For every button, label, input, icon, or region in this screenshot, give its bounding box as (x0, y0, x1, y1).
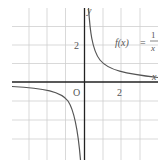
svg-text:x: x (150, 43, 155, 53)
svg-text:f(x): f(x) (115, 37, 130, 49)
x-tick-label-2: 2 (117, 87, 122, 98)
svg-text:=: = (140, 37, 146, 48)
origin-label: O (73, 87, 80, 98)
x-axis-label: x (151, 71, 157, 82)
curve-negative-branch (12, 87, 81, 161)
y-axis-label: y (86, 5, 92, 16)
svg-text:1: 1 (151, 30, 156, 40)
graph-canvas: y x O 2 2 f(x) = 1 x (0, 0, 164, 162)
y-tick-label-2: 2 (74, 40, 79, 51)
function-label: f(x) = 1 x (115, 30, 158, 53)
